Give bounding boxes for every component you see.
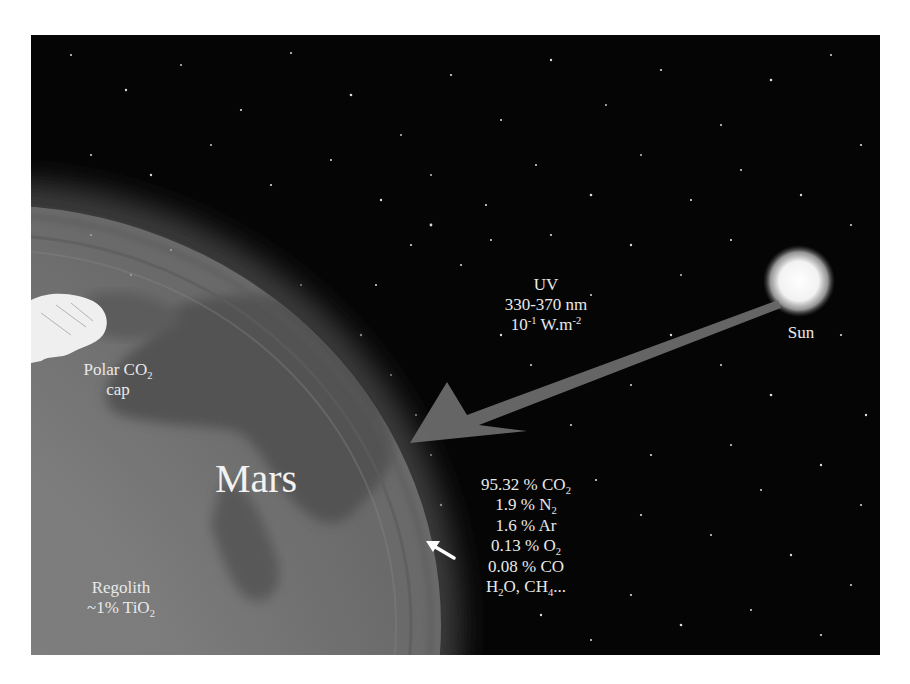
- sun-label: Sun: [756, 323, 846, 343]
- figure-panel: UV 330-370 nm 10-1 W.m-2 Sun Polar CO2 c…: [31, 35, 880, 655]
- atmo-row-trace: H2O, CH4...: [431, 577, 621, 597]
- polar-cap-label: Polar CO2 cap: [53, 360, 183, 400]
- regolith-label: Regolith ~1% TiO2: [51, 578, 191, 618]
- uv-label: UV 330-370 nm 10-1 W.m-2: [436, 275, 656, 335]
- uv-title: UV: [436, 275, 656, 295]
- uv-wavelength: 330-370 nm: [436, 295, 656, 315]
- atmo-row-n2: 1.9 % N2: [431, 495, 621, 515]
- atmo-row-ar: 1.6 % Ar: [431, 516, 621, 536]
- atmo-row-co2: 95.32 % CO2: [431, 475, 621, 495]
- atmosphere-composition: 95.32 % CO2 1.9 % N2 1.6 % Ar 0.13 % O2 …: [431, 475, 621, 597]
- planet-label: Mars: [171, 455, 341, 502]
- uv-irradiance: 10-1 W.m-2: [436, 315, 656, 335]
- atmo-row-co: 0.08 % CO: [431, 557, 621, 577]
- atmo-row-o2: 0.13 % O2: [431, 536, 621, 556]
